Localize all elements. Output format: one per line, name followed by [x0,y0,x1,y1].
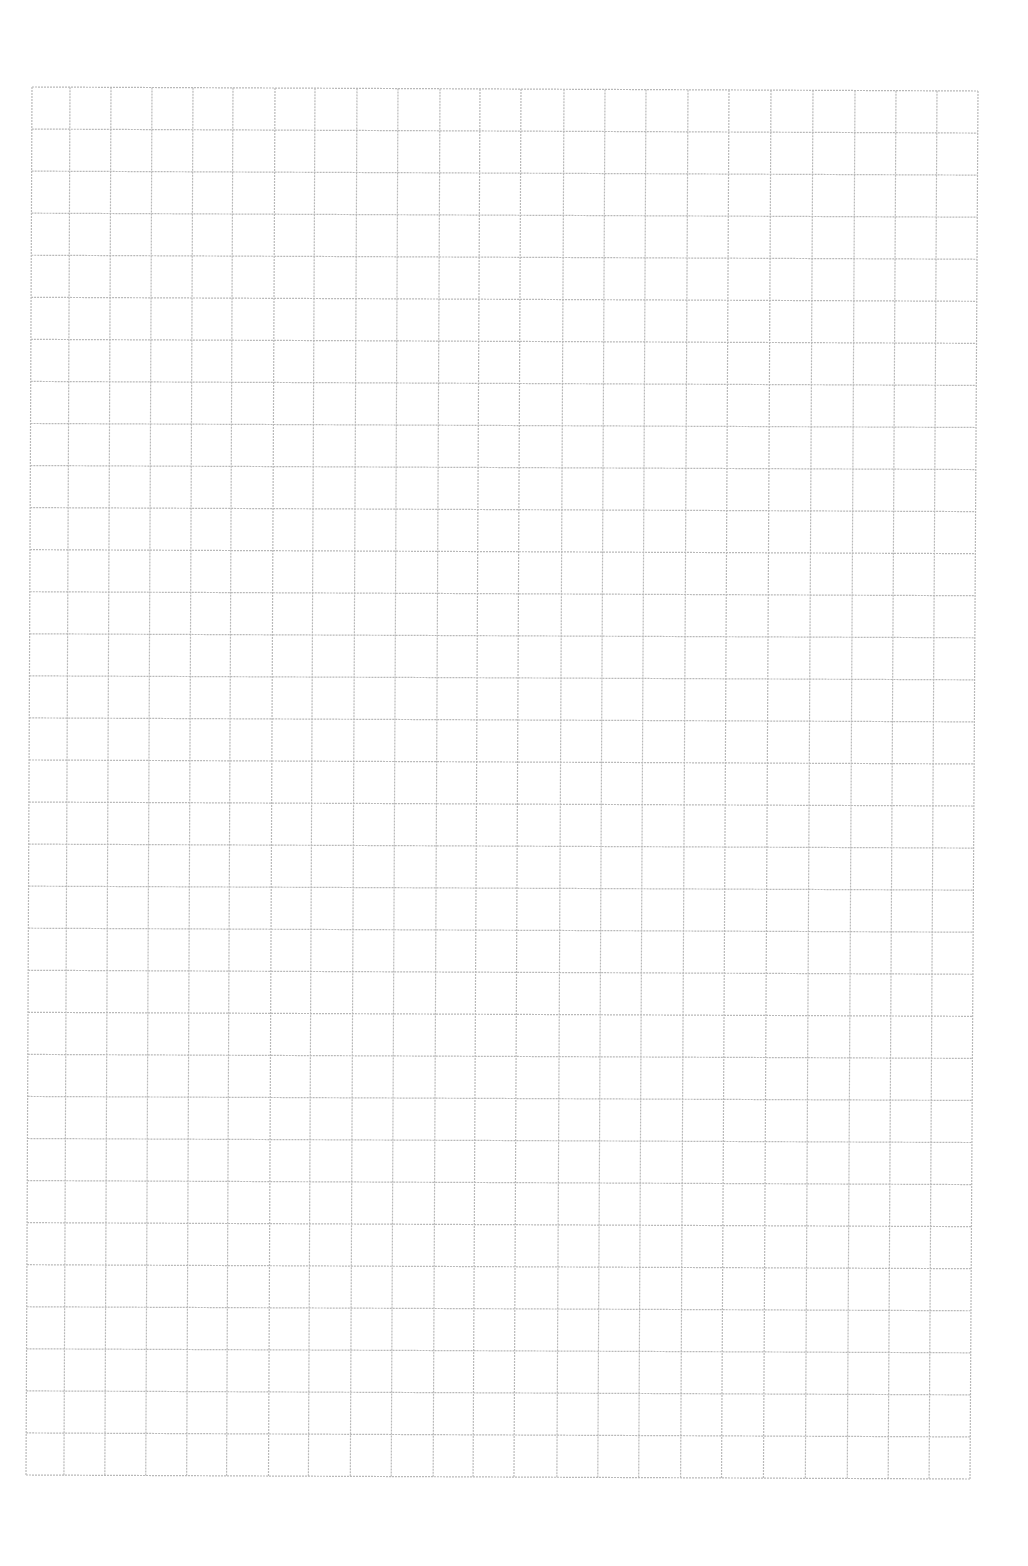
grid-horizontal-line [29,676,974,680]
grid-horizontal-line [26,1433,970,1437]
grid-horizontal-line [29,760,974,764]
grid-vertical-line [805,90,813,1478]
grid-vertical-line [888,91,896,1479]
grid-vertical-line [847,90,855,1478]
grid-horizontal-line [26,1391,970,1395]
grid-vertical-line [227,88,233,1476]
grid-horizontal-line [31,213,977,217]
grid-horizontal-line [32,87,978,91]
grid-vertical-line [433,89,440,1477]
grid-vertical-line [722,90,729,1478]
grid-horizontal-line [26,1475,970,1479]
grid-horizontal-line [27,1307,971,1311]
grid-horizontal-line [31,423,977,427]
grid-horizontal-line [30,550,975,554]
grid-horizontal-line [28,970,973,974]
grid-horizontal-line [28,1054,973,1058]
grid-horizontal-line [31,381,977,385]
grid-horizontal-line [29,886,974,890]
grid-horizontal-line [30,466,975,470]
grid-vertical-line [639,90,646,1478]
grid-horizontal-line [27,1181,971,1185]
grid-horizontal-line [29,844,974,848]
grid-horizontal-line [30,592,975,596]
grid-vertical-line [514,89,521,1477]
grid-vertical-line [268,88,275,1476]
grid-vertical-line [557,89,564,1477]
grid-horizontal-line [30,508,975,512]
grid-vertical-line [105,87,111,1475]
grid-horizontal-line [28,928,973,932]
grid-vertical-line [308,88,315,1476]
grid-vertical-line [350,88,357,1476]
grid-horizontal-line [27,1265,971,1269]
graph-paper-page [0,0,1028,1566]
grid [0,0,1028,1566]
grid-horizontal-line [28,1096,973,1100]
grid-horizontal-line [32,129,978,133]
grid-horizontal-line [31,297,977,301]
grid-vertical-line [598,89,605,1477]
grid-horizontal-line [28,1012,973,1016]
grid-vertical-line [64,87,70,1475]
grid-vertical-line [391,89,398,1477]
grid-vertical-line [929,91,937,1479]
grid-horizontal-line [27,1223,971,1227]
grid-vertical-line [187,88,193,1476]
grid-horizontal-line [27,1349,971,1353]
grid-vertical-line [26,87,32,1475]
grid-horizontal-line [27,1139,971,1143]
grid-vertical-line [146,88,152,1476]
grid-horizontal-line [30,634,975,638]
grid-vertical-line [970,91,978,1479]
grid-vertical-line [681,90,688,1478]
grid-vertical-line [763,90,771,1478]
grid-horizontal-line [29,718,974,722]
grid-horizontal-line [29,802,974,806]
grid-horizontal-line [32,171,978,175]
grid-horizontal-line [31,255,977,259]
grid-vertical-line [473,89,480,1477]
grid-horizontal-line [31,339,977,343]
